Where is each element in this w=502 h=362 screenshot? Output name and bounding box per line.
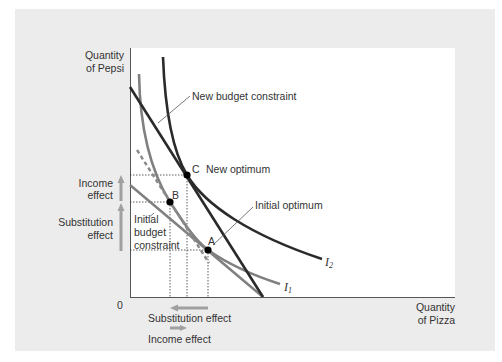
point-a-label: A: [208, 235, 215, 247]
consumer-choice-diagram: C New optimum B A Initial optimum New bu…: [0, 0, 502, 362]
y-axis-label-2: of Pepsi: [86, 62, 124, 74]
x-axis-label-2: of Pizza: [418, 314, 456, 326]
y-axis-label-1: Quantity: [85, 49, 125, 61]
initial-budget-label-3: constraint: [134, 239, 180, 251]
point-a: [204, 246, 211, 253]
income-effect-y-label-1: Income: [79, 177, 114, 189]
substitution-effect-y-label-1: Substitution: [58, 216, 113, 228]
income-effect-x-arrow: [170, 325, 187, 331]
substitution-effect-y-arrow: [118, 203, 125, 251]
income-effect-y-label-2: effect: [88, 189, 114, 201]
point-b-label: B: [172, 189, 179, 201]
substitution-effect-y-label-2: effect: [88, 229, 114, 241]
plot-area: [130, 48, 455, 297]
income-effect-y-arrow: [118, 175, 125, 201]
income-effect-x-label: Income effect: [148, 333, 211, 345]
initial-budget-label-1: Initial: [134, 213, 159, 225]
initial-optimum-label: Initial optimum: [255, 199, 323, 211]
initial-budget-label-2: budget: [134, 226, 166, 238]
x-axis-label-1: Quantity: [416, 301, 456, 313]
substitution-effect-x-label: Substitution effect: [148, 312, 231, 324]
origin-label: 0: [117, 299, 123, 311]
new-budget-label: New budget constraint: [192, 90, 297, 102]
point-c: [183, 171, 190, 178]
new-optimum-label: New optimum: [206, 163, 270, 175]
substitution-effect-x-arrow: [170, 305, 208, 312]
point-c-label: C: [192, 163, 200, 175]
